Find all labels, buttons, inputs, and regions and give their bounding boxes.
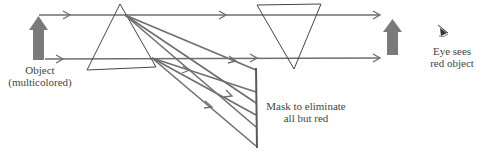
image-arrow-icon [383, 19, 402, 55]
object-arrow-icon [29, 16, 48, 60]
object-label-line2: (multicolored) [8, 76, 72, 88]
recombining-prism [257, 4, 321, 69]
eye-label: Eye sees red object [419, 45, 485, 69]
eye-label-line2: red object [419, 57, 485, 69]
mask-label: Mask to eliminate all but red [258, 100, 354, 124]
eye-label-line1: Eye sees [419, 45, 485, 57]
object-label-line1: Object [8, 64, 72, 76]
mask-label-line1: Mask to eliminate [258, 100, 354, 112]
dispersed-rays-bottom [152, 58, 256, 146]
mask-label-line2: all but red [258, 112, 354, 124]
top-ray [39, 11, 380, 19]
optics-diagram [0, 0, 485, 152]
eye-icon [438, 25, 448, 37]
mask [256, 68, 257, 148]
dispersing-prism [87, 4, 156, 70]
object-label: Object (multicolored) [8, 64, 72, 88]
bottom-ray [45, 54, 380, 63]
